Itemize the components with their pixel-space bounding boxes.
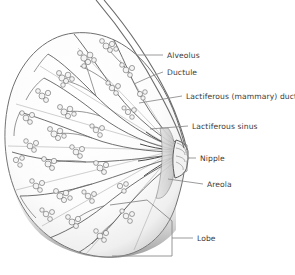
- label-lobe: Lobe: [197, 234, 216, 243]
- label-alveolus: Alveolus: [167, 51, 200, 60]
- label-lactiferous-sinus: Lactiferous sinus: [192, 122, 258, 131]
- anatomy-svg: Alveolus Ductule Lactiferous (mammary) d…: [0, 0, 295, 275]
- label-lactiferous-duct: Lactiferous (mammary) duct: [186, 92, 295, 101]
- breast-anatomy-figure: Alveolus Ductule Lactiferous (mammary) d…: [0, 0, 295, 275]
- label-areola: Areola: [207, 180, 232, 189]
- label-ductule: Ductule: [167, 68, 197, 77]
- label-nipple: Nipple: [200, 154, 225, 163]
